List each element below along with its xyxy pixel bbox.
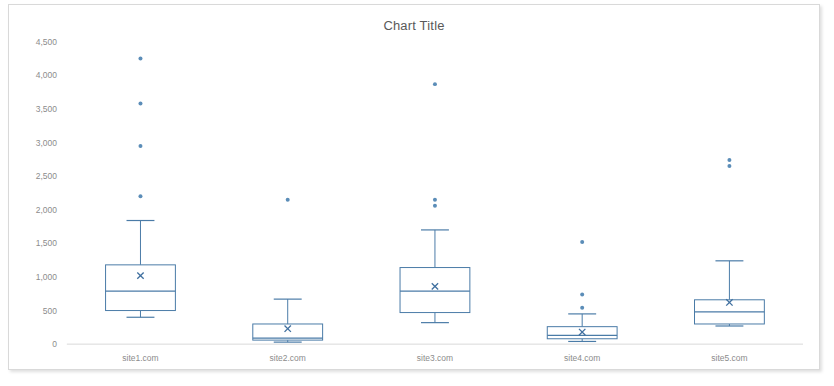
x-axis-tick-label: site1.com [122,353,158,363]
y-axis-tick-label: 500 [43,306,57,316]
box-plot-site4-com[interactable] [547,240,617,341]
box-plot-site2-com[interactable] [253,198,323,342]
outlier-point[interactable] [727,158,731,162]
y-axis-tick-label: 0 [52,339,57,349]
outlier-point[interactable] [138,144,142,148]
chart-title: Chart Title [383,18,444,33]
chart-container[interactable]: Chart Title 05001,0001,5002,0002,5003,00… [8,4,820,370]
x-axis: site1.comsite2.comsite3.comsite4.comsite… [67,344,803,363]
outlier-point[interactable] [727,164,731,168]
outlier-point[interactable] [580,240,584,244]
y-axis-tick-label: 3,500 [36,104,57,114]
y-axis-tick-label: 2,500 [36,171,57,181]
box-plot-site1-com[interactable] [106,57,176,318]
x-axis-tick-label: site4.com [564,353,600,363]
outlier-point[interactable] [580,292,584,296]
outlier-point[interactable] [138,194,142,198]
outlier-point[interactable] [433,204,437,208]
outlier-point[interactable] [433,82,437,86]
y-axis-tick-label: 1,500 [36,238,57,248]
outlier-point[interactable] [138,57,142,61]
outlier-point[interactable] [433,198,437,202]
box-iqr[interactable] [400,268,470,313]
box-plot-series-group [106,57,765,343]
y-axis-tick-label: 2,000 [36,205,57,215]
outlier-point[interactable] [138,102,142,106]
outlier-point[interactable] [286,198,290,202]
y-axis-tick-label: 4,500 [36,37,57,47]
x-axis-tick-label: site2.com [270,353,306,363]
box-iqr[interactable] [106,265,176,311]
y-axis-tick-label: 1,000 [36,272,57,282]
y-axis-tick-label: 4,000 [36,70,57,80]
box-plot-site3-com[interactable] [400,82,470,323]
y-axis-tick-label: 3,000 [36,138,57,148]
box-plot-chart[interactable]: Chart Title 05001,0001,5002,0002,5003,00… [9,5,819,369]
x-axis-tick-label: site5.com [711,353,747,363]
x-axis-tick-label: site3.com [417,353,453,363]
outlier-point[interactable] [580,306,584,310]
box-plot-site5-com[interactable] [695,158,765,326]
y-axis: 05001,0001,5002,0002,5003,0003,5004,0004… [36,37,57,349]
